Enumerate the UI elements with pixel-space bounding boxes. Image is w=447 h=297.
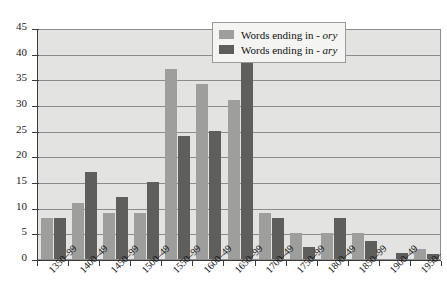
y-axis-tick: 45 (30, 29, 38, 30)
chart-legend: Words ending in - ory Words ending in - … (212, 22, 346, 63)
y-tick-mark (32, 106, 39, 107)
y-axis-label: 35 (16, 72, 27, 83)
y-tick-mark (32, 234, 39, 235)
y-axis-label: 0 (22, 252, 28, 263)
bar (178, 136, 190, 259)
y-axis-line (37, 29, 38, 260)
x-axis-tick (161, 261, 162, 266)
y-axis-label: 20 (16, 149, 27, 160)
legend-label-ory: Words ending in - ory (241, 29, 337, 41)
x-axis-tick (192, 261, 193, 266)
y-axis-tick: 25 (30, 132, 38, 133)
x-axis-tick (130, 261, 131, 266)
y-tick-mark (32, 29, 39, 30)
y-axis-tick: 35 (30, 80, 38, 81)
y-tick-mark (32, 209, 39, 210)
legend-label-ary-prefix: Words ending in - (241, 44, 323, 56)
bar (165, 69, 177, 259)
legend-item-ory: Words ending in - ory (219, 27, 337, 42)
x-axis-tick (317, 261, 318, 266)
legend-label-ory-prefix: Words ending in - (241, 29, 323, 41)
x-axis-tick (37, 261, 38, 266)
bar (209, 131, 221, 259)
y-tick-mark (32, 183, 39, 184)
bar (241, 49, 253, 259)
x-axis-tick (441, 261, 442, 266)
y-tick-mark (32, 55, 39, 56)
x-axis-tick (68, 261, 69, 266)
y-axis-label: 45 (16, 21, 27, 32)
x-axis-tick (223, 261, 224, 266)
y-axis-tick: 30 (30, 106, 38, 107)
bar (196, 84, 208, 259)
y-axis-tick: 20 (30, 157, 38, 158)
x-axis-tick (348, 261, 349, 266)
y-tick-mark (32, 157, 39, 158)
legend-swatch-ory (219, 30, 234, 39)
x-axis-tick (255, 261, 256, 266)
legend-label-ary: Words ending in - ary (241, 44, 337, 56)
x-axis-tick (410, 261, 411, 266)
bar (85, 172, 97, 259)
gridline (38, 80, 440, 81)
y-axis-label: 25 (16, 124, 27, 135)
x-axis-tick (99, 261, 100, 266)
y-axis-label: 30 (16, 98, 27, 109)
y-tick-mark (32, 132, 39, 133)
y-axis-tick: 5 (30, 234, 38, 235)
x-axis-tick (286, 261, 287, 266)
legend-item-ary: Words ending in - ary (219, 42, 337, 57)
bar (41, 218, 53, 259)
y-axis-tick: 15 (30, 183, 38, 184)
bar-chart: Words ending in - ory Words ending in - … (0, 0, 447, 297)
y-axis-label: 10 (16, 201, 27, 212)
y-axis-label: 15 (16, 175, 27, 186)
plot-area (37, 29, 441, 260)
legend-label-ary-suffix: ary (323, 44, 338, 56)
legend-label-ory-suffix: ory (323, 29, 338, 41)
y-tick-mark (32, 80, 39, 81)
y-axis-label: 40 (16, 47, 27, 58)
y-axis-label: 5 (22, 226, 28, 237)
x-axis-tick (379, 261, 380, 266)
y-axis-tick: 40 (30, 55, 38, 56)
legend-swatch-ary (219, 45, 234, 54)
y-axis-tick: 10 (30, 209, 38, 210)
bar (228, 100, 240, 259)
